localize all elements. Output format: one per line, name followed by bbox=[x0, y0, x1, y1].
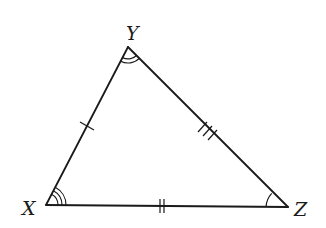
vertex-label-y: Y bbox=[126, 24, 139, 43]
side-xz bbox=[46, 205, 288, 207]
triangle-diagram bbox=[0, 0, 326, 228]
angle-marks-z bbox=[266, 193, 272, 207]
vertex-label-z: Z bbox=[294, 200, 307, 219]
tick-marks-xy bbox=[80, 122, 94, 130]
side-yz bbox=[128, 47, 288, 207]
vertex-label-x: X bbox=[22, 199, 36, 218]
tick-marks-yz bbox=[198, 122, 217, 140]
